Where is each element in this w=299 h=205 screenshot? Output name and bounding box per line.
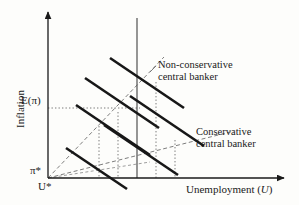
annotation-conservative-line2: central banker bbox=[196, 138, 256, 149]
annotation-conservative-line1: Conservative bbox=[196, 126, 251, 137]
phillips-curve-5 bbox=[104, 125, 178, 175]
u-star-label: U* bbox=[38, 180, 51, 193]
expected-inflation-label: E(π) bbox=[21, 94, 41, 107]
pi-star-label: π* bbox=[30, 164, 41, 177]
annotation-non-conservative-line2: central banker bbox=[158, 71, 218, 82]
annotation-non-conservative-line1: Non-conservative bbox=[158, 59, 233, 70]
leader-line-non-conservative bbox=[150, 66, 156, 72]
diagram-canvas bbox=[0, 0, 299, 205]
ray-non-conservative bbox=[48, 57, 164, 178]
phillips-curve-4 bbox=[130, 96, 204, 146]
annotation-non-conservative: Non-conservativecentral banker bbox=[158, 59, 233, 83]
x-axis-label: Unemployment (U) bbox=[186, 183, 272, 196]
phillips-curve-figure: Inflation Unemployment (U) E(π) π* U* No… bbox=[0, 0, 299, 205]
annotation-conservative: Conservativecentral banker bbox=[196, 126, 256, 150]
phillips-curve-2 bbox=[85, 78, 159, 128]
x-axis-label-variable: U bbox=[261, 183, 269, 195]
x-axis-label-text: Unemployment ( bbox=[186, 183, 261, 195]
x-axis-label-close: ) bbox=[269, 183, 273, 195]
